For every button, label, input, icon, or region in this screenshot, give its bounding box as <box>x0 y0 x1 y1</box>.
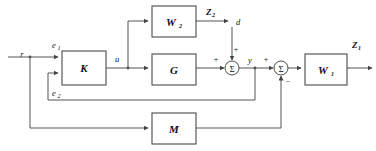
summing-junction-1-symbol: Σ <box>229 64 234 74</box>
signal-label-Z2-subscript: 2 <box>211 12 215 18</box>
summing-junction-2-symbol: Σ <box>278 64 283 74</box>
signal-label-y: y <box>247 55 252 65</box>
signal-label-e2-group: e 2 <box>52 88 61 99</box>
block-diagram-svg: K W 2 G M W 1 Σ Σ r <box>0 0 376 151</box>
signal-label-e1: e <box>52 40 56 50</box>
signal-label-e1-group: e 1 <box>52 40 61 51</box>
sign-sum2-input-left: + <box>264 55 269 64</box>
block-diagram-canvas: K W 2 G M W 1 Σ Σ r <box>0 0 376 151</box>
block-K-label: K <box>79 62 88 74</box>
block-K[interactable]: K <box>62 51 106 85</box>
signal-label-Z2: Z <box>205 7 212 17</box>
signal-label-d: d <box>236 17 241 27</box>
wire-u-to-W2 <box>127 21 148 69</box>
block-W1-label: W <box>318 64 329 76</box>
block-M[interactable]: M <box>152 113 196 144</box>
signal-label-u: u <box>115 54 119 64</box>
sign-sum1-input-top: + <box>234 45 239 54</box>
block-W1-subscript: 1 <box>331 71 334 77</box>
block-W2-subscript: 2 <box>178 23 182 29</box>
sign-sum2-input-bottom: − <box>286 77 291 86</box>
block-W2[interactable]: W 2 <box>152 6 196 37</box>
signal-label-e1-subscript: 1 <box>58 45 61 51</box>
block-M-label: M <box>168 123 180 135</box>
signal-label-e2-subscript: 2 <box>58 93 61 99</box>
signal-label-Z2-group: Z 2 <box>205 7 215 18</box>
summing-junction-1[interactable]: Σ <box>225 61 239 75</box>
signal-label-Z1-subscript: 1 <box>358 45 361 51</box>
signal-label-e2: e <box>52 88 56 98</box>
signal-label-Z1: Z <box>351 40 358 50</box>
summing-junction-2[interactable]: Σ <box>274 61 288 75</box>
block-G[interactable]: G <box>152 54 196 85</box>
block-W1[interactable]: W 1 <box>305 54 347 85</box>
sign-sum1-input-left: + <box>214 55 219 64</box>
block-G-label: G <box>170 64 178 76</box>
signal-label-Z1-group: Z 1 <box>351 40 361 51</box>
wire-M-to-sum2 <box>196 76 281 128</box>
block-W2-label: W <box>166 16 177 28</box>
